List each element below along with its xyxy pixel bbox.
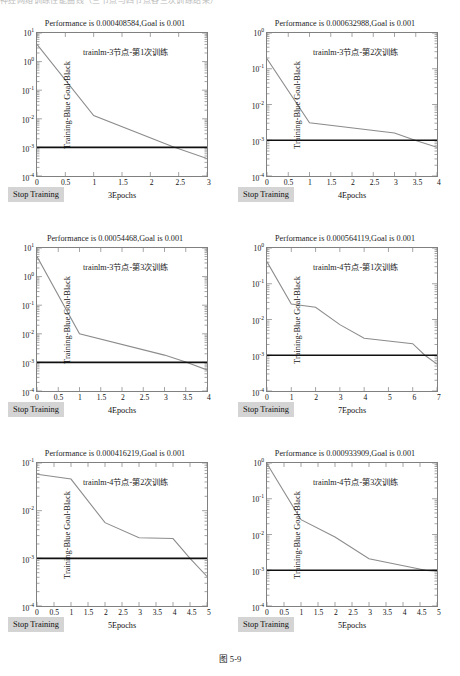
x-axis-tick-label: 0 xyxy=(35,178,39,187)
x-axis-tick-label: 4.5 xyxy=(187,608,197,617)
plot-annotation: trainlm-3节点-第2次训练 xyxy=(313,45,398,57)
stop-training-button[interactable]: Stop Training xyxy=(238,402,294,417)
performance-plot-panel: Performance is 0.000408584,Goal is 0.001… xyxy=(0,15,230,230)
x-axis-tick-label: 2 xyxy=(150,178,154,187)
x-axis-tick-label: 3 xyxy=(207,178,211,187)
x-axis-tick-label: 2 xyxy=(334,608,338,617)
x-axis-tick-label: 2.5 xyxy=(140,393,150,402)
x-axis-tick-label: 3.5 xyxy=(183,393,193,402)
x-axis-tick-label: 4 xyxy=(363,393,367,402)
x-axis-tick-label: 0 xyxy=(265,608,269,617)
x-axis-tick-label: 5 xyxy=(388,393,392,402)
plot-area: Training-Blue Goal-Black10010-110-210-31… xyxy=(266,462,438,607)
x-axis-tick-label: 2 xyxy=(351,178,355,187)
stop-training-button[interactable]: Stop Training xyxy=(8,187,64,202)
stop-training-button[interactable]: Stop Training xyxy=(238,187,294,202)
y-axis-tick-label: 10-3 xyxy=(252,137,264,146)
y-axis-tick-label: 10-2 xyxy=(22,116,34,125)
plot-title: Performance is 0.00054468,Goal is 0.001 xyxy=(0,234,230,244)
plot-annotation: trainlm-3节点-第1次训练 xyxy=(83,45,168,57)
x-axis-tick-label: 2.5 xyxy=(176,178,186,187)
stop-training-button[interactable]: Stop Training xyxy=(8,617,64,632)
x-axis-tick-label: 2.5 xyxy=(348,608,358,617)
x-axis-tick-label: 3 xyxy=(164,393,168,402)
stop-training-button[interactable]: Stop Training xyxy=(8,402,64,417)
y-axis-tick-label: 10-3 xyxy=(252,352,264,361)
x-axis-tick-label: 3 xyxy=(368,608,372,617)
y-axis-tick-label: 10-4 xyxy=(252,174,264,183)
x-axis-tick-label: 1.5 xyxy=(118,178,128,187)
y-axis-tick-label: 10-4 xyxy=(252,604,264,613)
y-axis-tick-label: 101 xyxy=(24,29,34,38)
x-axis-tick-label: 0.5 xyxy=(61,178,71,187)
y-axis-tick-label: 100 xyxy=(24,273,34,282)
x-axis-tick-label: 3.5 xyxy=(383,608,393,617)
x-axis-tick-label: 2 xyxy=(121,393,125,402)
y-axis-label: Training-Blue Goal-Black xyxy=(63,32,72,177)
x-axis-tick-label: 2 xyxy=(314,393,318,402)
y-axis-tick-label: 10-1 xyxy=(22,87,34,96)
x-axis-tick-label: 1 xyxy=(78,393,82,402)
x-axis-tick-label: 4 xyxy=(207,393,211,402)
y-axis-tick-label: 100 xyxy=(254,459,264,468)
y-axis-label: Training-Blue Goal-Black xyxy=(293,462,302,607)
plot-annotation: trainlm-4节点-第3次训练 xyxy=(313,475,398,487)
performance-plot-panel: Performance is 0.000632988,Goal is 0.001… xyxy=(230,15,460,230)
plot-area: Training-Blue Goal-Black10010-110-210-31… xyxy=(266,32,438,177)
plot-annotation: trainlm-4节点-第1次训练 xyxy=(313,260,398,272)
x-axis-tick-label: 0.5 xyxy=(284,178,294,187)
plot-area: Training-Blue Goal-Black10110010-110-210… xyxy=(36,32,208,177)
x-axis-tick-label: 1 xyxy=(299,608,303,617)
plot-grid: Performance is 0.000408584,Goal is 0.001… xyxy=(0,15,460,645)
performance-plot-panel: Performance is 0.000564119,Goal is 0.001… xyxy=(230,230,460,445)
plot-annotation: trainlm-3节点-第3次训练 xyxy=(83,260,168,272)
x-axis-tick-label: 1 xyxy=(92,178,96,187)
plot-annotation: trainlm-4节点-第2次训练 xyxy=(83,475,168,487)
performance-plot-panel: Performance is 0.00054468,Goal is 0.001T… xyxy=(0,230,230,445)
plot-area: Training-Blue Goal-Black10110010-110-210… xyxy=(36,247,208,392)
y-axis-tick-label: 10-4 xyxy=(22,174,34,183)
plot-title: Performance is 0.000632988,Goal is 0.001 xyxy=(230,19,460,29)
y-axis-tick-label: 10-4 xyxy=(252,389,264,398)
x-axis-tick-label: 1.5 xyxy=(97,393,107,402)
performance-plot-panel: Performance is 0.000416219,Goal is 0.001… xyxy=(0,445,230,645)
y-axis-label: Training-Blue Goal-Black xyxy=(293,247,302,392)
performance-plot-panel: Performance is 0.000933909,Goal is 0.001… xyxy=(230,445,460,645)
y-axis-label: Training-Blue Goal-Black xyxy=(63,462,72,607)
x-axis-tick-label: 7 xyxy=(437,393,441,402)
x-axis-tick-label: 3.5 xyxy=(413,178,423,187)
y-axis-tick-label: 101 xyxy=(24,244,34,253)
y-axis-tick-label: 10-1 xyxy=(252,495,264,504)
plot-area: Training-Blue Goal-Black10-110-210-310-4… xyxy=(36,462,208,607)
plot-title: Performance is 0.000408584,Goal is 0.001 xyxy=(0,19,230,29)
x-axis-tick-label: 1 xyxy=(290,393,294,402)
stop-training-button[interactable]: Stop Training xyxy=(238,617,294,632)
y-axis-tick-label: 10-2 xyxy=(252,101,264,110)
x-axis-tick-label: 4 xyxy=(437,178,441,187)
x-axis-tick-label: 1 xyxy=(308,178,312,187)
x-axis-tick-label: 0 xyxy=(265,393,269,402)
y-axis-tick-label: 10-3 xyxy=(22,360,34,369)
plot-area: Training-Blue Goal-Black10010-110-210-31… xyxy=(266,247,438,392)
y-axis-tick-label: 10-2 xyxy=(22,507,34,516)
x-axis-tick-label: 5 xyxy=(207,608,211,617)
x-axis-tick-label: 2.5 xyxy=(118,608,128,617)
x-axis-tick-label: 5 xyxy=(437,608,441,617)
y-axis-tick-label: 10-4 xyxy=(22,389,34,398)
x-axis-tick-label: 2.5 xyxy=(370,178,380,187)
y-axis-tick-label: 10-1 xyxy=(252,280,264,289)
y-axis-tick-label: 10-4 xyxy=(22,604,34,613)
running-header: 神经网络训练性能曲线（三节点与四节点各三次训练结果） xyxy=(0,0,240,9)
y-axis-tick-label: 10-2 xyxy=(252,531,264,540)
x-axis-tick-label: 0 xyxy=(265,178,269,187)
x-axis-tick-label: 1.5 xyxy=(314,608,324,617)
y-axis-tick-label: 10-3 xyxy=(22,555,34,564)
x-axis-tick-label: 0.5 xyxy=(54,393,64,402)
x-axis-tick-label: 1 xyxy=(69,608,73,617)
x-axis-tick-label: 2 xyxy=(104,608,108,617)
x-axis-tick-label: 6 xyxy=(413,393,417,402)
plot-title: Performance is 0.000933909,Goal is 0.001 xyxy=(230,449,460,459)
x-axis-tick-label: 0.5 xyxy=(279,608,289,617)
y-axis-tick-label: 10-1 xyxy=(22,459,34,468)
y-axis-tick-label: 100 xyxy=(254,29,264,38)
